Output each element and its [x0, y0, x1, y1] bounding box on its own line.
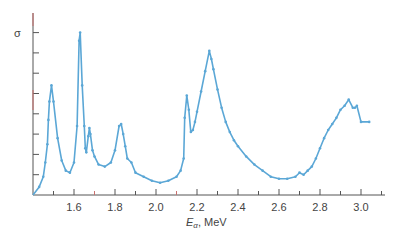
x-tick-label: 1.8: [107, 201, 122, 213]
data-point: [210, 58, 213, 61]
data-point: [47, 119, 50, 122]
data-point: [190, 131, 193, 134]
data-point: [84, 147, 87, 150]
data-point: [83, 125, 86, 128]
data-point: [298, 171, 301, 174]
data-point: [126, 157, 129, 160]
data-point: [270, 175, 273, 178]
data-point: [253, 163, 256, 166]
data-point: [339, 108, 342, 111]
data-point: [183, 117, 186, 120]
data-point: [319, 147, 322, 150]
data-point: [88, 127, 91, 130]
data-point: [87, 135, 90, 138]
x-tick-label: 1.6: [66, 201, 81, 213]
data-point: [302, 173, 305, 176]
data-point: [65, 169, 68, 172]
data-point: [196, 110, 199, 113]
data-point: [78, 39, 81, 42]
data-point: [120, 123, 123, 126]
data-point: [79, 31, 82, 34]
data-point: [245, 155, 248, 158]
data-point: [42, 175, 45, 178]
data-point: [81, 84, 84, 87]
data-point: [360, 121, 363, 124]
data-point: [175, 175, 178, 178]
data-point: [110, 161, 113, 164]
data-point: [179, 169, 182, 172]
data-point: [237, 145, 240, 148]
x-tick-label: 2.0: [148, 201, 163, 213]
data-point: [356, 104, 359, 107]
cross-section-curve: [33, 33, 369, 195]
data-point: [200, 90, 203, 93]
data-point: [315, 157, 318, 160]
data-point: [368, 121, 371, 124]
data-point: [97, 163, 100, 166]
data-point: [151, 179, 154, 182]
data-point: [50, 84, 53, 87]
data-point: [38, 186, 41, 189]
x-tick-label: 2.4: [230, 201, 245, 213]
data-point: [124, 145, 127, 148]
data-point: [85, 151, 88, 154]
data-point: [89, 133, 92, 136]
data-point: [114, 149, 117, 152]
data-series: [33, 31, 371, 195]
data-point: [323, 137, 326, 140]
data-point: [220, 106, 223, 109]
data-point: [159, 182, 162, 185]
data-point: [60, 159, 63, 162]
data-point: [208, 50, 211, 53]
data-point: [278, 177, 281, 180]
data-point: [261, 169, 264, 172]
data-point: [335, 117, 338, 120]
data-point: [56, 137, 59, 140]
data-point: [286, 177, 289, 180]
data-point: [204, 70, 207, 73]
x-axis: 1.61.82.02.22.42.62.83.0 Eα, MeV: [33, 189, 385, 230]
data-point: [91, 149, 94, 152]
data-point: [354, 106, 357, 109]
data-point: [73, 161, 76, 164]
x-tick-label: 2.6: [271, 201, 286, 213]
data-point: [233, 139, 236, 142]
data-point: [69, 171, 72, 174]
data-point: [311, 165, 314, 168]
data-point: [122, 133, 125, 136]
data-point: [331, 123, 334, 126]
data-point: [185, 94, 188, 97]
data-point: [194, 121, 197, 124]
data-point: [52, 100, 55, 103]
data-point: [167, 179, 170, 182]
x-tick-label: 2.8: [312, 201, 327, 213]
data-point: [224, 121, 227, 124]
data-point: [46, 143, 49, 146]
data-point: [212, 68, 215, 71]
cross-section-chart: σ 1.61.82.02.22.42.62.83.0 Eα, MeV: [0, 0, 405, 241]
data-point: [103, 165, 106, 168]
x-tick-label: 2.2: [189, 201, 204, 213]
data-point: [130, 161, 133, 164]
data-point: [192, 129, 195, 132]
data-point: [216, 88, 219, 91]
y-axis: σ: [14, 13, 39, 195]
data-point: [188, 108, 191, 111]
y-axis-label: σ: [14, 27, 21, 39]
data-point: [327, 129, 330, 132]
data-point-markers: [38, 31, 371, 188]
data-point: [44, 161, 47, 164]
x-tick-label: 3.0: [353, 201, 368, 213]
x-axis-label: Eα, MeV: [186, 216, 227, 230]
data-point: [343, 104, 346, 107]
data-point: [347, 98, 350, 101]
data-point: [93, 155, 96, 158]
data-point: [182, 157, 185, 160]
data-point: [48, 100, 51, 103]
data-point: [142, 175, 145, 178]
data-point: [229, 131, 232, 134]
data-point: [134, 171, 137, 174]
data-point: [118, 125, 121, 128]
data-point: [76, 125, 79, 128]
data-point: [294, 175, 297, 178]
